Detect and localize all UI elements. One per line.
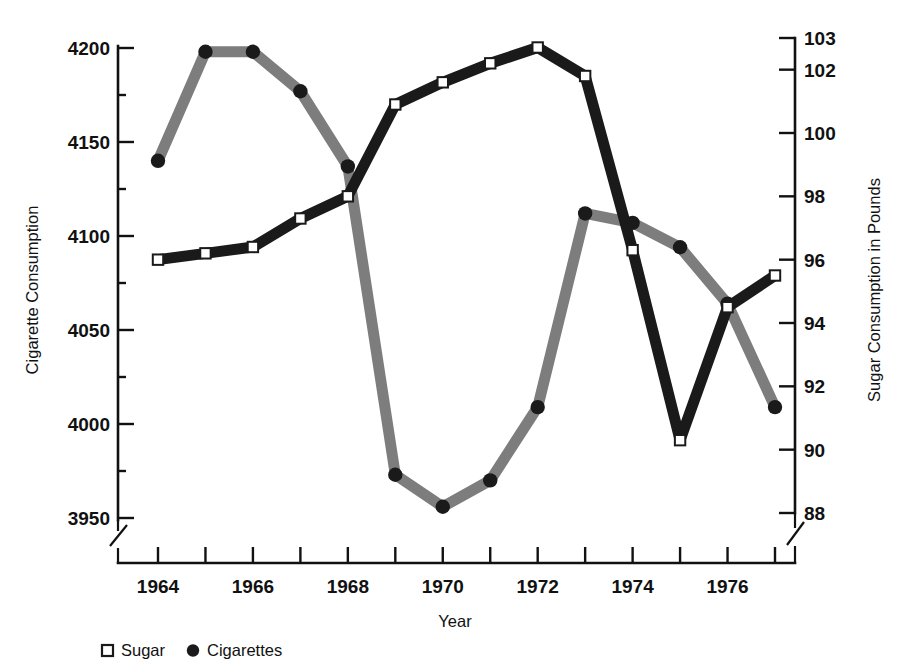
data-point-sugar xyxy=(295,213,305,223)
data-point-sugar xyxy=(485,58,495,68)
right-tick-label: 90 xyxy=(804,440,825,461)
data-point-sugar xyxy=(343,191,353,201)
x-tick-label: 1966 xyxy=(232,576,274,597)
data-point-sugar xyxy=(770,270,780,280)
legend-sugar-label: Sugar xyxy=(121,641,166,659)
data-point-sugar xyxy=(532,42,542,52)
left-tick-label: 4200 xyxy=(68,38,110,59)
data-point-cigarettes xyxy=(625,216,639,230)
x-tick-label: 1970 xyxy=(422,576,464,597)
left-axis-title: Cigarette Consumption xyxy=(23,206,41,375)
x-tick-label: 1974 xyxy=(611,576,654,597)
right-tick-label: 92 xyxy=(804,376,825,397)
left-tick-label: 4000 xyxy=(68,414,110,435)
left-tick-label: 4050 xyxy=(68,320,110,341)
data-point-cigarettes xyxy=(483,473,497,487)
data-point-sugar xyxy=(722,302,732,312)
data-point-cigarettes xyxy=(530,400,544,414)
chart-background xyxy=(0,0,913,668)
data-point-sugar xyxy=(438,77,448,87)
data-point-cigarettes xyxy=(768,400,782,414)
left-tick-label: 3950 xyxy=(68,508,110,529)
data-point-cigarettes xyxy=(436,500,450,514)
dual-axis-line-chart: 395040004050410041504200 889092949698100… xyxy=(0,0,913,668)
data-point-cigarettes xyxy=(578,206,592,220)
x-tick-label: 1968 xyxy=(327,576,369,597)
right-tick-label: 103 xyxy=(804,28,836,49)
right-tick-label: 102 xyxy=(804,60,836,81)
legend-cigarettes-marker-icon xyxy=(187,644,199,656)
data-point-cigarettes xyxy=(388,468,402,482)
data-point-sugar xyxy=(675,435,685,445)
right-tick-label: 94 xyxy=(804,313,826,334)
chart-container: 395040004050410041504200 889092949698100… xyxy=(0,0,913,668)
legend-cigarettes-label: Cigarettes xyxy=(207,641,282,659)
data-point-sugar xyxy=(153,254,163,264)
right-tick-label: 100 xyxy=(804,123,836,144)
right-axis-title: Sugar Consumption in Pounds xyxy=(865,178,883,402)
data-point-sugar xyxy=(248,242,258,252)
data-point-cigarettes xyxy=(246,45,260,59)
data-point-cigarettes xyxy=(293,84,307,98)
data-point-cigarettes xyxy=(673,240,687,254)
right-tick-label: 96 xyxy=(804,250,825,271)
data-point-sugar xyxy=(390,99,400,109)
left-tick-label: 4150 xyxy=(68,132,110,153)
data-point-sugar xyxy=(580,71,590,81)
x-tick-label: 1976 xyxy=(706,576,748,597)
x-tick-label: 1972 xyxy=(517,576,559,597)
data-point-cigarettes xyxy=(151,154,165,168)
data-point-cigarettes xyxy=(341,159,355,173)
legend-sugar-marker-icon xyxy=(102,645,113,656)
x-axis-title: Year xyxy=(438,612,472,630)
data-point-sugar xyxy=(200,248,210,258)
left-tick-label: 4100 xyxy=(68,226,110,247)
data-point-sugar xyxy=(627,245,637,255)
right-tick-label: 88 xyxy=(804,503,825,524)
right-tick-label: 98 xyxy=(804,186,825,207)
x-tick-label: 1964 xyxy=(137,576,180,597)
data-point-cigarettes xyxy=(198,45,212,59)
